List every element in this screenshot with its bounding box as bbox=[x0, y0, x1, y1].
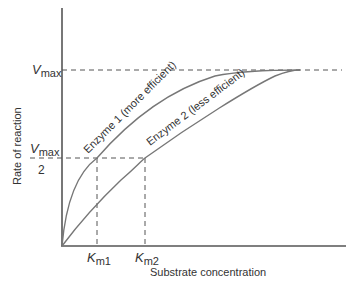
km1-label: Km1 bbox=[87, 250, 111, 267]
y-axis-title: Rate of reaction bbox=[11, 107, 23, 185]
km2-label: Km2 bbox=[135, 250, 159, 267]
vmax-label: Vmax bbox=[32, 62, 62, 79]
enzyme1-curve bbox=[62, 70, 300, 246]
x-axis-title: Substrate concentration bbox=[150, 266, 266, 278]
half-vmax-numerator: Vmax bbox=[30, 141, 60, 158]
half-vmax-denominator: 2 bbox=[38, 163, 45, 177]
michaelis-menten-diagram: Enzyme 1 (more efficient) Enzyme 2 (less… bbox=[0, 0, 358, 290]
curve1-label: Enzyme 1 (more efficient) bbox=[81, 58, 178, 155]
